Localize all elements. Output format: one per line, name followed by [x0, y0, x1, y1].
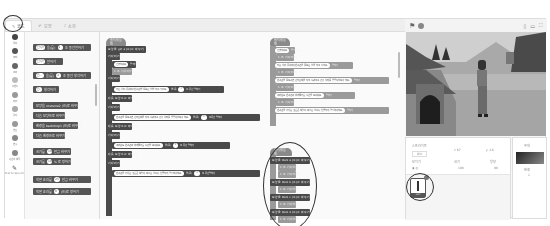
large-stage-icon[interactable]: ▭: [530, 23, 535, 29]
block-input[interactable]: 반려견을 키우는 것은 큰 책임이 따르는 일이니 신중하게 결정해야 해요.: [275, 108, 345, 113]
block-input[interactable]: 2: [58, 45, 63, 50]
palette-block-set-size[interactable]: 크기를100% 로 정하기: [33, 158, 71, 165]
palette-block-change-effect[interactable]: 색깔 효과를25만큼 바꾸기: [33, 176, 91, 183]
block-input[interactable]: 2: [178, 87, 184, 92]
tab-sounds[interactable]: ♪ 소리: [58, 20, 83, 31]
script1-block[interactable]: 모양을 girl-a (으)로 바꾸기: [106, 46, 146, 53]
script2-hat-block[interactable]: 클릭했을 때: [270, 38, 290, 46]
script1-block[interactable]: 저는 우리 동네에서 반려견을 돌보는 일을 하고 있어요.을(를) 2 초 동…: [112, 86, 224, 93]
category-variables[interactable]: 변수: [5, 134, 24, 149]
small-stage-icon[interactable]: ▯: [524, 23, 527, 29]
block-input[interactable]: 25: [54, 177, 60, 182]
palette-block-think-for-secs[interactable]: 음...을(를) 2 초 동안 생각하기: [33, 72, 91, 79]
stop-icon[interactable]: [418, 23, 424, 29]
block-input[interactable]: 안녕!: [36, 59, 45, 64]
block-input[interactable]: 안녕하세요: [275, 48, 289, 53]
stage-selector-pane[interactable]: 무대 배경 1: [512, 137, 547, 219]
sprite-name-field[interactable]: Girl: [412, 151, 427, 157]
script1-block[interactable]: 안녕하세요말하기: [112, 61, 136, 68]
category-looks[interactable]: 형태: [5, 47, 24, 62]
category-text-to-speech[interactable]: ✎Text to Speech: [5, 163, 24, 178]
editor-tabs: ✎ 코드 ✐ 모양 ♪ 소리: [5, 19, 405, 32]
show-toggle[interactable]: ◉ ◎: [412, 166, 418, 170]
palette-block-next-costume[interactable]: 다음 모양으로 바꾸기: [33, 112, 65, 119]
block-input[interactable]: 반려견을 키우는 것은 큰 책임이 따르는 일이니 신중하게 결정해야 해요.: [114, 171, 184, 176]
script2-block[interactable]: 1 초 기다리기: [276, 69, 294, 76]
script2-block[interactable]: 안녕하세요말하기: [273, 47, 295, 54]
stage-header: ⚑ ▯ ▭ ⛶: [405, 19, 547, 32]
palette-scrollbar[interactable]: [95, 84, 97, 106]
script2-block[interactable]: 저는 우리 동네에서 반려견을 돌보는 일을 하고 있어요.말하기: [273, 62, 353, 69]
block-input[interactable]: 여러분도 반려견과 함께 즐거운 시간을 보내세요.: [275, 93, 324, 98]
script1-block[interactable]: 다음 모양으로 바꾸기: [106, 95, 132, 102]
script1-block[interactable]: 기다리기: [106, 132, 120, 139]
size-field[interactable]: 100: [458, 166, 464, 170]
block-input[interactable]: 저는 우리 동네에서 반려견을 돌보는 일을 하고 있어요.: [275, 63, 330, 68]
category-control[interactable]: 제어: [5, 90, 24, 105]
script1-block[interactable]: 다음 모양으로 바꾸기: [106, 123, 132, 130]
script1-block[interactable]: 기다리기: [106, 53, 120, 60]
script1-block[interactable]: 여러분도 반려견과 함께 즐거운 시간을 보내세요.을(를) 2 초 동안 말하…: [112, 142, 230, 149]
category-motion[interactable]: 동작: [5, 32, 24, 47]
size-label: 크기: [454, 160, 460, 164]
y-field[interactable]: y -18: [486, 148, 494, 152]
y-label: y: [486, 148, 488, 152]
palette-block-say[interactable]: 안녕!말하기: [33, 58, 63, 65]
palette-block-set-effect[interactable]: 색깔 효과를0(으)로 정하기: [33, 188, 91, 195]
fullscreen-icon[interactable]: ⛶: [539, 22, 543, 29]
palette-block-think[interactable]: 음...생각하기: [33, 86, 59, 93]
block-input[interactable]: 2: [173, 143, 179, 148]
stage-title: 무대: [524, 144, 530, 148]
block-input[interactable]: 안녕하세요: [114, 62, 128, 67]
block-input[interactable]: 10: [47, 149, 52, 154]
block-input[interactable]: 2: [201, 115, 207, 120]
block-input[interactable]: 여러분도 반려견과 함께 즐거운 시간을 보내세요.: [114, 143, 163, 148]
script1-block[interactable]: 기다리기: [106, 160, 120, 167]
block-input[interactable]: 음...: [36, 73, 44, 78]
script1-block[interactable]: 반려견을 키우는 것은 큰 책임이 따르는 일이니 신중하게 결정해야 해요.을…: [112, 170, 260, 177]
script2-block[interactable]: 반려견을 키우는 것은 큰 책임이 따르는 일이니 신중하게 결정해야 해요.말…: [273, 107, 389, 114]
green-flag-icon[interactable]: ⚑: [409, 22, 415, 30]
backdrop-thumbnail[interactable]: [516, 152, 544, 164]
block-input[interactable]: 2: [194, 171, 200, 176]
category-sensing[interactable]: 감지: [5, 105, 24, 120]
direction-field[interactable]: 90: [494, 166, 498, 170]
block-input[interactable]: 음...: [36, 87, 42, 92]
script1-hat-block[interactable]: 클릭했을 때: [106, 38, 126, 46]
script2-block[interactable]: 1 초 기다리기: [276, 99, 294, 106]
highlight-circle-script3: [263, 142, 317, 226]
code-scrollbar[interactable]: [398, 52, 400, 78]
block-input[interactable]: 반려견을 돌보려면 먼저 산책을 자주 시켜주고 건강 상태를 꼼꼼히 살펴야 …: [275, 78, 352, 83]
palette-block-change-size[interactable]: 크기를10만큼 바꾸기: [33, 148, 71, 155]
script2-block[interactable]: 반려견을 돌보려면 먼저 산책을 자주 시켜주고 건강 상태를 꼼꼼히 살펴야 …: [273, 77, 389, 84]
stage-canvas[interactable]: [406, 32, 546, 136]
script1-block[interactable]: 기다리기: [106, 75, 120, 82]
script1-block[interactable]: 기다리기: [106, 104, 120, 111]
operators-icon: [12, 121, 18, 127]
palette-block-say-for-secs[interactable]: 안녕!을(를) 2 초 동안 말하기: [33, 44, 91, 51]
script1-block[interactable]: 1 초 기다리기: [112, 68, 132, 75]
brush-icon: ✐: [38, 23, 41, 28]
script2-block[interactable]: 1 초 기다리기: [276, 84, 294, 91]
script2-block[interactable]: 1 초 기다리기: [276, 54, 294, 61]
block-input[interactable]: 안녕!: [36, 45, 45, 50]
highlight-circle-tab: [3, 15, 23, 32]
palette-block-next-backdrop[interactable]: 다음 배경으로 바꾸기: [33, 132, 65, 139]
sound-icon: [12, 63, 18, 69]
block-input[interactable]: 2: [56, 73, 61, 78]
block-input[interactable]: 반려견을 돌보려면 먼저 산책을 자주 시켜주고 건강 상태를 꼼꼼히 살펴야 …: [114, 115, 191, 120]
script1-block[interactable]: 다음 모양으로 바꾸기: [106, 151, 132, 158]
block-input[interactable]: 0: [54, 189, 59, 194]
script1-block[interactable]: 반려견을 돌보려면 먼저 산책을 자주 시켜주고 건강 상태를 꼼꼼히 살펴야 …: [112, 114, 260, 121]
category-operators[interactable]: 연산: [5, 119, 24, 134]
x-field[interactable]: x 67: [454, 148, 461, 152]
palette-block-switch-costume[interactable]: 모양을 costume2 (으)로 바꾸기: [33, 102, 78, 109]
category-my-blocks[interactable]: 나만의 블록: [5, 148, 24, 163]
block-input[interactable]: 저는 우리 동네에서 반려견을 돌보는 일을 하고 있어요.: [114, 87, 169, 92]
script2-block[interactable]: 여러분도 반려견과 함께 즐거운 시간을 보내세요.말하기: [273, 92, 355, 99]
category-sound[interactable]: 소리: [5, 61, 24, 76]
palette-block-switch-backdrop[interactable]: 배경을 backdrop1 (으)로 바꾸기: [33, 122, 78, 129]
block-input[interactable]: 100: [47, 159, 52, 164]
category-events[interactable]: 이벤트: [5, 76, 24, 91]
tab-costumes[interactable]: ✐ 모양: [32, 20, 57, 31]
